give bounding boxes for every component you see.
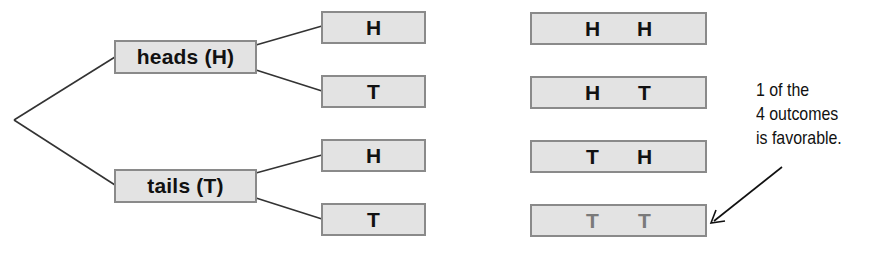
outcome-hh: H H [530,12,707,45]
node-tails-h-label: H [366,144,381,168]
node-tails: tails (T) [114,169,257,203]
probability-tree-diagram: heads (H) tails (T) H T H T H H H T T H … [0,0,874,255]
tree-branches [0,0,874,255]
outcome-ht-second: T [634,81,656,105]
node-heads-t-label: T [367,80,380,104]
favorable-annotation: 1 of the 4 outcomes is favorable. [756,78,842,150]
annotation-line-3: is favorable. [756,126,842,150]
outcome-hh-second: H [634,17,656,41]
branch-tails-h [256,155,322,173]
annotation-line-1: 1 of the [756,78,842,102]
outcome-tt-second: T [634,209,656,233]
branch-heads-t [256,70,322,91]
branch-tails-t [256,198,322,219]
node-heads-h-label: H [366,16,381,40]
node-heads-t: T [321,75,426,108]
branch-heads-h [256,26,322,45]
outcome-ht: H T [530,76,707,109]
node-tails-t-label: T [367,208,380,232]
outcome-tt-first: T [582,209,604,233]
node-tails-t: T [321,203,426,236]
outcome-th: T H [530,140,707,173]
node-heads-h: H [321,11,426,44]
node-heads-label: heads (H) [137,45,234,69]
outcome-th-second: H [634,145,656,169]
node-tails-label: tails (T) [147,174,223,198]
annotation-arrow-head [711,210,725,223]
outcome-tt-favorable: T T [530,204,707,237]
outcome-th-first: T [582,145,604,169]
annotation-arrow-shaft [714,167,782,221]
outcome-ht-first: H [582,81,604,105]
branch-root-heads [14,57,115,120]
node-heads: heads (H) [114,40,257,74]
branch-root-tails [14,120,115,185]
annotation-line-2: 4 outcomes [756,102,842,126]
node-tails-h: H [321,139,426,172]
outcome-hh-first: H [582,17,604,41]
